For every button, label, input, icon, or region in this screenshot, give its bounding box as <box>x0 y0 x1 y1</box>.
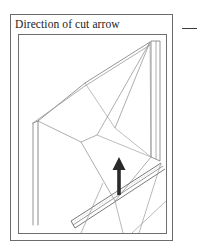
beam-top-line <box>71 163 161 221</box>
outer-edges-group <box>33 42 150 225</box>
lower-lines-group <box>81 163 166 233</box>
top-ridge-right-line <box>85 42 150 83</box>
facet-e-line <box>115 128 151 157</box>
top-ridge-left-lower-line <box>33 86 85 123</box>
direction-of-cut-arrow <box>113 157 126 195</box>
dash-mark-icon <box>182 28 197 29</box>
facet-i-line <box>81 142 115 201</box>
beam-hatch-line <box>72 165 162 224</box>
lower-b-line <box>139 163 161 233</box>
column-base-line <box>151 157 160 161</box>
facet-lines-group <box>38 42 151 201</box>
lower-d-line <box>132 201 166 233</box>
figure-bounding-box: Direction of cut arrow <box>10 14 173 241</box>
figure-root: Direction of cut arrow <box>0 0 198 251</box>
facet-g-line <box>38 121 81 142</box>
line-drawing-svg <box>19 35 166 233</box>
facet-c-line <box>97 42 150 135</box>
facet-f-line <box>97 135 151 157</box>
top-ridge-left-line <box>38 83 85 121</box>
facet-b-line <box>115 42 150 128</box>
drawing-frame <box>18 34 167 234</box>
facet-a-line <box>85 83 115 128</box>
right-column-group <box>151 41 160 161</box>
facet-h-line <box>81 135 97 142</box>
figure-caption: Direction of cut arrow <box>15 17 170 32</box>
lower-a-line <box>115 201 123 233</box>
arrow-head-icon <box>113 157 126 195</box>
